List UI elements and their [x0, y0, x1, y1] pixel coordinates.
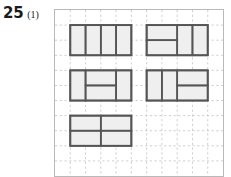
worksheet-figure: 25 (1) — [0, 0, 231, 177]
question-subnumber: (1) — [27, 9, 39, 20]
question-label: 25 (1) — [3, 4, 39, 22]
dotted-grid — [55, 10, 223, 176]
grid-frame — [54, 9, 224, 177]
question-number: 25 — [3, 4, 23, 22]
